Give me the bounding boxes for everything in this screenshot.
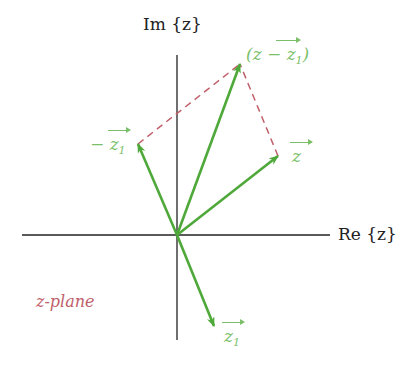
label-text: (z − z — [246, 44, 296, 64]
real-axis-label: Re {z} — [338, 224, 397, 244]
vector-arrow-icon — [290, 142, 312, 143]
label-subscript: 1 — [233, 336, 240, 349]
label-subscript: 1 — [296, 54, 303, 67]
label-z1: z1 — [224, 326, 240, 349]
label-neg-z1: − z1 — [90, 134, 126, 157]
imaginary-axis-label: Im {z} — [143, 14, 202, 34]
z-plane-label: z-plane — [36, 292, 95, 311]
vector-neg-z1 — [138, 144, 177, 235]
dashed-edge-z-to-diff — [240, 64, 278, 156]
label-text: z — [224, 326, 233, 346]
label-z-minus-z1: (z − z1) — [246, 44, 309, 67]
diagram-canvas — [0, 0, 416, 367]
vector-arrow-icon — [108, 130, 130, 131]
label-text: − z — [90, 134, 119, 154]
label-suffix: ) — [303, 44, 310, 64]
label-text: z — [292, 146, 301, 166]
label-z: z — [292, 146, 301, 166]
vector-z1 — [177, 235, 214, 326]
label-subscript: 1 — [119, 144, 126, 157]
vector-arrow-icon — [276, 40, 300, 41]
vector-arrow-icon — [222, 322, 244, 323]
